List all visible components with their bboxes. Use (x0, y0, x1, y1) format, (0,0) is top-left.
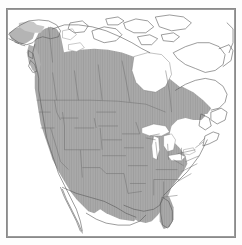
north-america-map (7, 9, 235, 237)
map-frame (6, 8, 236, 238)
range-map-figure: North America species distribution range… (0, 0, 242, 245)
